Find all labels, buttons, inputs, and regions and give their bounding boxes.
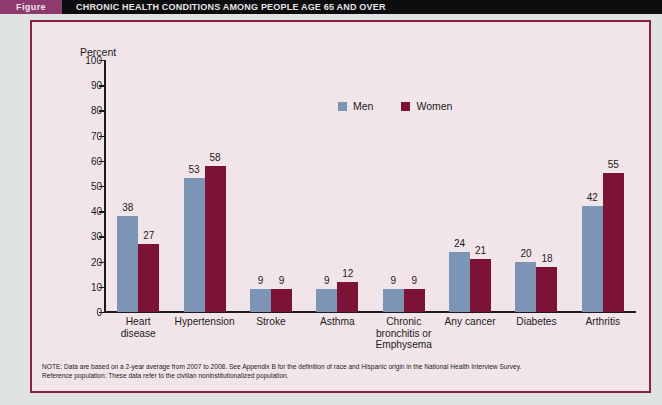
bar-men[interactable]: 20 [515, 60, 536, 312]
bar-women[interactable]: 9 [271, 60, 292, 312]
figure-page: Source: Centers for Disease Control and … [0, 14, 662, 405]
bar-group: 912 [304, 60, 370, 312]
x-axis-category-labels: HeartdiseaseHypertensionStrokeAsthmaChro… [105, 316, 636, 356]
y-tick-mark [99, 236, 105, 237]
bar-group: 4255 [570, 60, 636, 312]
bar-value-label: 18 [541, 253, 552, 264]
note-line-1: NOTE: Data are based on a 2-year average… [42, 362, 642, 371]
bar-men[interactable]: 42 [582, 60, 603, 312]
y-tick-label: 60 [62, 155, 102, 166]
bar-value-label: 20 [520, 248, 531, 259]
chart-note: NOTE: Data are based on a 2-year average… [42, 362, 642, 380]
category-label: Chronicbronchitis orEmphysema [371, 316, 437, 351]
bar-women[interactable]: 58 [205, 60, 226, 312]
bar-group: 3827 [105, 60, 171, 312]
plot-area: Percent 0102030405060708090100 MenWomen … [32, 22, 649, 354]
category-label: Hypertension [171, 316, 237, 328]
y-tick-mark [99, 186, 105, 187]
category-label-line: disease [105, 328, 171, 340]
y-tick-label: 30 [62, 231, 102, 242]
bar-value-label: 55 [608, 159, 619, 170]
y-tick-label: 10 [62, 281, 102, 292]
bar-value-label: 24 [454, 238, 465, 249]
category-label-line: Asthma [304, 316, 370, 328]
bar-value-label: 53 [189, 164, 200, 175]
y-tick-label: 50 [62, 181, 102, 192]
bar-value-label: 9 [411, 275, 417, 286]
bar-group: 99 [371, 60, 437, 312]
bar-rect: 27 [138, 244, 159, 312]
bar-men[interactable]: 9 [316, 60, 337, 312]
y-tick-label: 0 [62, 307, 102, 318]
y-tick-mark [99, 211, 105, 212]
y-tick-label: 40 [62, 206, 102, 217]
y-axis-tick-labels: 0102030405060708090100 [60, 60, 102, 312]
bar-men[interactable]: 53 [184, 60, 205, 312]
category-label: Arthritis [570, 316, 636, 328]
category-label: Heartdisease [105, 316, 171, 339]
bar-men[interactable]: 9 [250, 60, 271, 312]
bar-group: 2018 [503, 60, 569, 312]
bar-rect: 21 [470, 259, 491, 312]
note-line-2: Reference population: These data refer t… [42, 371, 642, 380]
bar-rect: 42 [582, 206, 603, 312]
category-label-line: Arthritis [570, 316, 636, 328]
bar-group: 5358 [171, 60, 237, 312]
category-label-line: Any cancer [437, 316, 503, 328]
bar-rect: 58 [205, 166, 226, 312]
category-label-line: Hypertension [171, 316, 237, 328]
category-label-line: Heart [105, 316, 171, 328]
bar-women[interactable]: 18 [536, 60, 557, 312]
category-label: Diabetes [503, 316, 569, 328]
figure-title: CHRONIC HEALTH CONDITIONS AMONG PEOPLE A… [76, 2, 386, 12]
bar-rect: 9 [271, 289, 292, 312]
category-label: Any cancer [437, 316, 503, 328]
bar-rect: 18 [536, 267, 557, 312]
y-tick-mark [99, 161, 105, 162]
bar-women[interactable]: 9 [404, 60, 425, 312]
bar-men[interactable]: 38 [117, 60, 138, 312]
y-tick-label: 20 [62, 256, 102, 267]
bar-women[interactable]: 27 [138, 60, 159, 312]
y-tick-mark [99, 287, 105, 288]
bar-women[interactable]: 55 [603, 60, 624, 312]
bar-rect: 9 [383, 289, 404, 312]
bar-rect: 9 [250, 289, 271, 312]
chart-frame: Percent 0102030405060708090100 MenWomen … [30, 20, 651, 393]
figure-banner: Figure CHRONIC HEALTH CONDITIONS AMONG P… [0, 0, 662, 14]
bar-rect: 55 [603, 173, 624, 312]
y-tick-mark [99, 85, 105, 86]
bar-women[interactable]: 12 [337, 60, 358, 312]
bar-rect: 12 [337, 282, 358, 312]
y-tick-mark [99, 136, 105, 137]
bar-rect: 9 [404, 289, 425, 312]
y-tick-label: 80 [62, 105, 102, 116]
category-label-line: Stroke [238, 316, 304, 328]
bar-rect: 53 [184, 178, 205, 312]
bar-value-label: 21 [475, 245, 486, 256]
y-tick-mark [99, 262, 105, 263]
bar-men[interactable]: 24 [449, 60, 470, 312]
bar-group: 2421 [437, 60, 503, 312]
y-tick-mark [99, 110, 105, 111]
bar-value-label: 58 [210, 152, 221, 163]
bar-series-container: 382753589991299242120184255 [105, 60, 636, 312]
bar-women[interactable]: 21 [470, 60, 491, 312]
bar-value-label: 9 [258, 275, 264, 286]
bar-rect: 24 [449, 252, 470, 312]
category-label-line: Diabetes [503, 316, 569, 328]
category-label-line: Chronic [371, 316, 437, 328]
y-tick-mark [99, 60, 105, 61]
bar-value-label: 12 [342, 268, 353, 279]
bar-men[interactable]: 9 [383, 60, 404, 312]
bar-value-label: 9 [390, 275, 396, 286]
category-label-line: Emphysema [371, 339, 437, 351]
bar-group: 99 [238, 60, 304, 312]
bar-value-label: 27 [143, 230, 154, 241]
figure-tag: Figure [0, 0, 62, 14]
y-tick-label: 70 [62, 130, 102, 141]
bar-value-label: 9 [324, 275, 330, 286]
category-label-line: bronchitis or [371, 328, 437, 340]
y-tick-label: 90 [62, 80, 102, 91]
bar-value-label: 42 [587, 192, 598, 203]
